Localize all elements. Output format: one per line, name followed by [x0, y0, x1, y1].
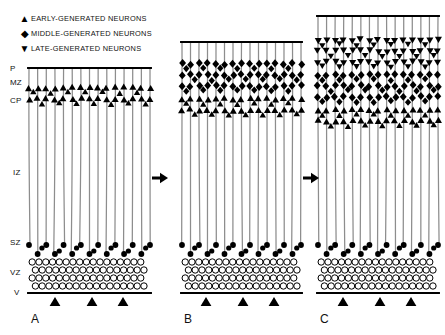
neuron-diamond-icon	[426, 93, 433, 101]
neuron-up-triangle-icon	[137, 85, 144, 91]
neuron-down-triangle-icon	[319, 64, 325, 70]
radial-glia-soma	[226, 245, 231, 250]
neuron-up-triangle-icon	[35, 85, 42, 91]
neuron-up-triangle-icon	[323, 107, 330, 113]
neuron-diamond-icon	[375, 82, 382, 90]
neuron-diamond-icon	[409, 94, 416, 102]
ventricular-zone-cell	[287, 267, 293, 273]
neuron-up-triangle-icon	[315, 107, 322, 113]
ventricular-zone-cell	[110, 259, 116, 265]
neuron-diamond-icon	[422, 97, 428, 104]
ventricular-zone-cell	[416, 283, 422, 289]
neuron-diamond-icon	[196, 71, 203, 79]
ventricular-zone-cell	[53, 283, 59, 289]
neuron-diamond-icon	[332, 71, 339, 79]
neuron-up-triangle-icon	[341, 107, 348, 113]
ventricular-zone-cell	[199, 283, 205, 289]
ventricular-zone-cell	[352, 259, 358, 265]
neuron-down-triangle-icon	[357, 36, 364, 42]
neuron-up-triangle-icon	[340, 118, 347, 124]
neuron-up-triangle-icon	[203, 107, 210, 113]
neuron-up-triangle-icon	[366, 107, 373, 113]
ventricular-zone-cell	[239, 267, 245, 273]
neuron-up-triangle-icon	[94, 95, 101, 101]
radial-glia-soma	[126, 248, 131, 253]
neuron-up-triangle-icon	[147, 85, 154, 91]
ventricular-zone-cell	[212, 283, 218, 289]
neuron-up-triangle-icon	[426, 118, 433, 124]
neuron-up-triangle-icon	[186, 106, 193, 112]
neuron-up-triangle-icon	[417, 117, 424, 123]
neuron-diamond-icon	[205, 71, 212, 79]
ventricular-zone-cell	[127, 267, 133, 273]
radial-glia-soma	[179, 242, 185, 248]
neuron-diamond-icon	[179, 59, 186, 67]
ventricular-zone-cell	[124, 275, 130, 281]
ventricular-zone-cell	[338, 259, 344, 265]
ventricular-zone-cell	[49, 275, 55, 281]
neuron-down-triangle-icon	[366, 47, 373, 53]
neuron-diamond-icon	[434, 71, 441, 79]
ventricular-zone-cell	[427, 259, 433, 265]
neuron-diamond-icon	[353, 75, 359, 82]
radial-glia-soma	[328, 245, 333, 250]
neuron-diamond-icon	[294, 76, 300, 83]
neuron-down-triangle-icon	[332, 59, 339, 65]
ventricular-zone-cell	[46, 283, 52, 289]
neuron-up-triangle-icon	[247, 95, 254, 101]
neuron-up-triangle-icon	[271, 107, 278, 113]
zone-label-v: V	[14, 288, 20, 297]
neuron-up-triangle-icon	[187, 95, 194, 101]
neuron-up-triangle-icon	[205, 96, 212, 102]
neuron-diamond-icon	[358, 71, 365, 79]
ventricular-zone-cell	[83, 259, 89, 265]
ventricular-zone-cell	[348, 267, 354, 273]
neuron-diamond-icon	[375, 71, 382, 79]
ventricular-zone-cell	[335, 267, 341, 273]
neuron-up-triangle-icon	[230, 108, 237, 114]
radial-glia-soma	[247, 242, 253, 248]
ventricular-zone-cell	[138, 275, 144, 281]
neuron-down-triangle-icon	[314, 48, 321, 54]
ventricular-zone-cell	[253, 283, 259, 289]
ventricular-zone-cell	[386, 275, 392, 281]
neuron-diamond-icon	[213, 81, 220, 89]
neuron-up-triangle-icon	[417, 107, 424, 113]
neuron-up-triangle-icon	[33, 95, 40, 101]
ventricular-zone-cell	[43, 259, 49, 265]
ventricular-zone-cell	[216, 275, 222, 281]
neuron-down-triangle-icon	[388, 42, 394, 48]
neuron-diamond-icon	[281, 71, 288, 79]
ventricular-zone-cell	[114, 267, 120, 273]
ventricular-zone-cell	[86, 283, 92, 289]
ventricular-zone-cell	[63, 259, 69, 265]
neuron-up-triangle-icon	[281, 106, 288, 112]
neuron-diamond-icon	[204, 59, 211, 67]
radial-glia-soma	[418, 242, 424, 248]
neuron-down-triangle-icon	[417, 48, 424, 54]
ventricular-zone-cell	[202, 275, 208, 281]
ventricular-zone-cell	[243, 259, 249, 265]
ventricular-zone-cell	[352, 275, 358, 281]
panel-label-b: B	[184, 312, 192, 326]
neuron-down-triangle-icon	[371, 64, 377, 70]
ventricular-tick-arrow-icon	[87, 297, 98, 306]
panel-a	[25, 68, 154, 306]
ventricular-zone-cell	[382, 267, 388, 273]
ventricular-zone-cell	[342, 267, 348, 273]
neuron-up-triangle-icon	[410, 106, 417, 112]
ventricular-zone-cell	[321, 267, 327, 273]
neuron-down-triangle-icon	[418, 59, 425, 65]
neuron-up-triangle-icon	[121, 96, 128, 102]
ventricular-zone-cell	[90, 259, 96, 265]
neuron-diamond-icon	[392, 82, 399, 90]
ventricular-zone-cell	[280, 267, 286, 273]
ventricular-zone-cell	[46, 267, 52, 273]
ventricular-zone-cell	[134, 283, 140, 289]
zone-label-sz: SZ	[10, 238, 21, 247]
neuron-up-triangle-icon	[345, 123, 351, 129]
neuron-down-triangle-icon	[353, 64, 359, 70]
ventricular-zone-cell	[335, 283, 341, 289]
ventricular-zone-cell	[406, 259, 412, 265]
ventricular-zone-cell	[236, 275, 242, 281]
